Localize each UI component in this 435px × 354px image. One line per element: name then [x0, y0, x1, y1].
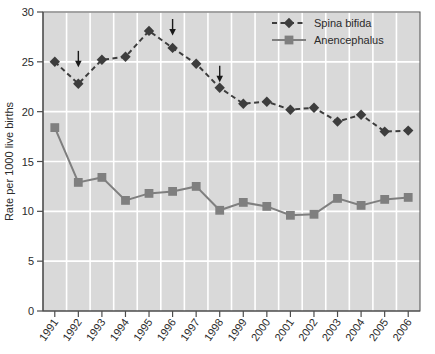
x-axis-tick-label: 1997: [178, 316, 202, 343]
data-point-marker: [168, 187, 177, 196]
x-axis-tick-label: 1991: [37, 316, 61, 343]
data-point-marker: [192, 182, 201, 191]
data-point-marker: [145, 189, 154, 198]
x-axis-tick-label: 1998: [201, 316, 225, 343]
y-axis-tick-label: 30: [22, 6, 34, 18]
data-point-marker: [239, 198, 248, 207]
y-axis-title: Rate per 1000 live births: [3, 101, 15, 221]
y-axis-tick-label: 20: [22, 106, 34, 118]
x-axis-tick-label: 1999: [225, 316, 249, 343]
x-axis-tick-label: 2003: [319, 316, 343, 343]
chart-container: 051015202530Rate per 1000 live births199…: [0, 0, 435, 354]
y-axis-tick-label: 0: [28, 305, 34, 317]
data-point-marker: [215, 206, 224, 215]
x-axis-tick-label: 2004: [343, 316, 367, 343]
y-axis-tick-label: 10: [22, 205, 34, 217]
x-axis-tick-label: 2006: [390, 316, 414, 343]
x-axis-tick-label: 1995: [131, 316, 155, 343]
neural-tube-defect-rate-chart: 051015202530Rate per 1000 live births199…: [0, 0, 435, 354]
x-axis-tick-label: 1992: [60, 316, 84, 343]
legend-marker: [285, 36, 294, 45]
data-point-marker: [262, 202, 271, 211]
data-point-marker: [121, 196, 130, 205]
data-point-marker: [98, 173, 107, 182]
data-point-marker: [310, 210, 319, 219]
data-point-marker: [404, 193, 413, 202]
data-point-marker: [74, 178, 83, 187]
data-point-marker: [50, 123, 59, 132]
x-axis-tick-label: 2002: [296, 316, 320, 343]
x-axis-tick-label: 2001: [272, 316, 296, 343]
data-point-marker: [333, 194, 342, 203]
x-axis-tick-label: 2000: [249, 316, 273, 343]
x-axis-tick-label: 2005: [366, 316, 390, 343]
data-point-marker: [357, 201, 366, 210]
legend-item-anencephalus: Anencephalus: [272, 34, 384, 46]
x-axis-tick-label: 1993: [84, 316, 108, 343]
x-axis-tick-label: 1996: [154, 316, 178, 343]
data-point-marker: [286, 211, 295, 220]
y-axis-tick-label: 5: [28, 255, 34, 267]
y-axis-tick-label: 25: [22, 56, 34, 68]
y-axis: 051015202530: [22, 6, 43, 317]
legend-label: Anencephalus: [314, 34, 384, 46]
legend-label: Spina bifida: [314, 17, 372, 29]
x-axis-tick-label: 1994: [107, 316, 131, 343]
y-axis-tick-label: 15: [22, 156, 34, 168]
x-axis: 1991199219931994199519961997199819992000…: [37, 311, 420, 343]
data-point-marker: [380, 195, 389, 204]
